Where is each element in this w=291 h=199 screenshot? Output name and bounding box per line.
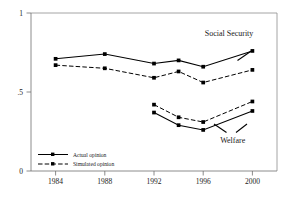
legend-marker-simulated [51,162,54,165]
x-tick-label-1996: 1996 [196,177,211,186]
x-tick-label-2000: 2000 [245,177,260,186]
data-point [201,65,205,69]
y-tick-label-1: 1 [19,9,23,18]
data-point [103,52,107,56]
data-point [251,68,255,72]
data-point [251,100,255,104]
data-point [152,111,156,115]
x-tick-label-1992: 1992 [147,177,162,186]
data-point [201,81,205,85]
data-point [152,76,156,80]
data-point [177,70,181,74]
data-point [54,57,58,61]
data-point [201,120,205,124]
data-point [251,109,255,113]
data-point [152,62,156,66]
data-point [177,115,181,119]
y-tick-label-0point5: .5 [17,88,23,97]
data-point [152,103,156,107]
x-tick-label-1988: 1988 [97,177,112,186]
x-tick-label-1984: 1984 [48,177,63,186]
line-chart: 1 .5 0 1984 1988 1992 1996 2000 Social S… [0,0,291,199]
legend-marker-actual [51,153,54,156]
annotation-label-0: Social Security [205,29,254,38]
data-point [103,66,107,70]
chart-container: 1 .5 0 1984 1988 1992 1996 2000 Social S… [0,0,291,199]
data-point [177,59,181,63]
data-point [54,63,58,67]
legend-label-simulated: Simulated opinion [73,161,114,167]
legend-label-actual: Actual opinion [73,152,107,158]
annotation-label-1: Welfare [220,136,246,145]
data-point [201,128,205,132]
y-tick-label-0: 0 [19,167,23,176]
data-point [177,123,181,127]
